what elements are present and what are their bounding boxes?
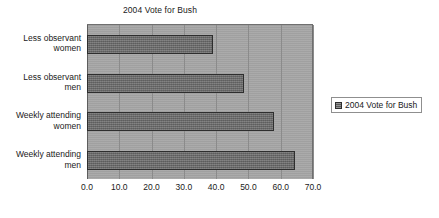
legend: 2004 Vote for Bush — [331, 97, 422, 113]
bar — [87, 35, 213, 54]
category-label-line: men — [0, 82, 81, 93]
category-label-line: Weekly attending — [0, 149, 81, 160]
category-label: Weekly attendingwomen — [0, 110, 81, 131]
gridline — [313, 25, 314, 179]
y-axis-category-labels: Weekly attendingmenWeekly attendingwomen… — [0, 24, 83, 179]
category-label-line: women — [0, 43, 81, 54]
x-axis-tick-labels: 0.010.020.030.040.050.060.070.0 — [0, 182, 439, 196]
bar-slot — [87, 103, 312, 142]
chart-title: 2004 Vote for Bush — [0, 5, 320, 15]
bar-slot — [87, 64, 312, 103]
category-label-line: women — [0, 121, 81, 132]
category-label-line: Less observant — [0, 72, 81, 83]
category-label-line: men — [0, 160, 81, 171]
x-tick-label: 70.0 — [293, 182, 333, 192]
bar — [87, 74, 244, 93]
plot-area — [87, 24, 313, 179]
bar-slot — [87, 25, 312, 64]
bar-chart: 2004 Vote for Bush Weekly attendingmenWe… — [0, 0, 439, 218]
category-label: Less observantwomen — [0, 33, 81, 54]
category-label-line: Less observant — [0, 33, 81, 44]
category-label: Weekly attendingmen — [0, 149, 81, 170]
legend-swatch-icon — [335, 102, 342, 109]
category-label: Less observantmen — [0, 72, 81, 93]
bar — [87, 112, 274, 131]
bar-slot — [87, 141, 312, 180]
legend-entry-label: 2004 Vote for Bush — [345, 100, 417, 110]
bar-series — [87, 25, 312, 179]
bar — [87, 151, 295, 170]
category-label-line: Weekly attending — [0, 110, 81, 121]
